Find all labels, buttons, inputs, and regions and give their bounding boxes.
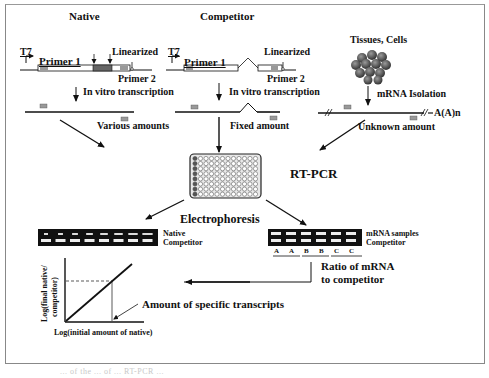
native-amount-label: Various amounts	[97, 121, 169, 131]
gel-lane-label: B	[319, 248, 324, 255]
gel-right-competitor-label: Competitor	[366, 239, 406, 247]
figure-caption: ... of the ... of ... RT-PCR ...	[60, 367, 164, 376]
gel-lane-label: A	[289, 248, 294, 255]
competitor-construct	[166, 56, 296, 152]
competitor-linearized-label: Linearized	[264, 47, 310, 57]
competitor-t7-label: T7	[168, 47, 180, 57]
rtpcr-label: RT-PCR	[290, 167, 337, 180]
gel-left-competitor-label: Competitor	[163, 239, 203, 247]
competitor-primer1-label: Primer 1	[184, 57, 226, 68]
cell-cluster-icon	[351, 50, 391, 85]
competitor-primer2-label: Primer 2	[267, 74, 305, 84]
pcr-plate-icon	[190, 154, 261, 198]
native-primer1-label: Primer 1	[39, 56, 81, 67]
mrna-isolation-label: mRNA Isolation	[377, 89, 446, 99]
gel-right-mrna-label: mRNA samples	[366, 230, 419, 238]
native-heading: Native	[69, 11, 100, 22]
native-construct	[20, 54, 152, 147]
gel-left-native-label: Native	[163, 230, 185, 238]
plot-annotation: Amount of specific transcripts	[142, 299, 284, 310]
unknown-amount-label: Unknown amount	[358, 122, 435, 132]
tissues-heading: Tissues, Cells	[350, 35, 407, 45]
gel-native-competitor	[38, 229, 158, 246]
electrophoresis-label: Electrophoresis	[180, 213, 260, 225]
gel-lane-label: B	[304, 248, 309, 255]
native-linearized-label: Linearized	[112, 47, 158, 57]
plot-xlabel: Log(initial amount of native)	[54, 329, 152, 337]
ratio-line1: Ratio of mRNA	[321, 261, 394, 272]
gel-lane-label: C	[349, 248, 354, 255]
native-transcription-label: In vitro transcription	[83, 87, 174, 97]
gel-lane-label: A	[274, 248, 279, 255]
competitor-transcription-label: In vitro transcription	[229, 87, 320, 97]
competitor-amount-label: Fixed amount	[230, 121, 289, 131]
competitor-heading: Competitor	[200, 11, 254, 22]
native-t7-label: T7	[20, 47, 32, 57]
ratio-line2: to competitor	[321, 274, 384, 285]
plot-ylabel-line2: competitor)	[51, 277, 59, 317]
native-primer2-label: Primer 2	[118, 74, 156, 84]
standard-curve-plot	[65, 258, 144, 322]
polya-label: A(A)n	[434, 108, 461, 118]
plot-ylabel-line1: Log(final native/	[41, 265, 49, 322]
gel-lane-label: C	[334, 248, 339, 255]
